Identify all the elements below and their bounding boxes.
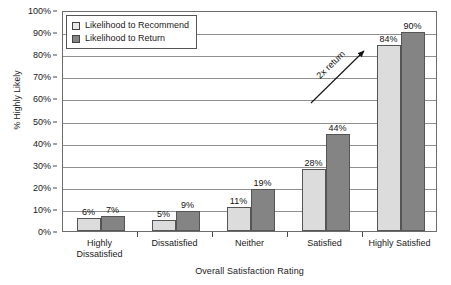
y-axis-tick-label: 20% xyxy=(33,183,51,192)
x-axis-tick-mark xyxy=(137,232,138,237)
x-axis-category-label-line: Highly xyxy=(62,238,137,249)
bar-chart: % Highly Likely 0%10%20%30%40%50%60%70%8… xyxy=(0,0,451,285)
legend-item[interactable]: Likelihood to Recommend xyxy=(72,19,189,32)
x-axis-category-label-line: Highly Satisfied xyxy=(362,238,437,249)
bar[interactable] xyxy=(251,189,275,231)
y-axis-tick-label: 0% xyxy=(38,228,51,237)
legend-label: Likelihood to Recommend xyxy=(85,21,189,30)
x-axis-category-label: Neither xyxy=(212,238,287,249)
y-axis-tick-mark xyxy=(53,187,57,188)
bar-group: 11%19% xyxy=(213,12,288,231)
bar[interactable] xyxy=(302,169,326,231)
x-axis-category-label: Highly Satisfied xyxy=(362,238,437,249)
bar-group: 28%44% xyxy=(288,12,363,231)
x-axis-tick-mark xyxy=(362,232,363,237)
bar[interactable] xyxy=(227,207,251,231)
y-axis-tick-mark xyxy=(53,232,57,233)
bar-value-label: 19% xyxy=(246,178,280,188)
x-axis-category-label: Dissatisfied xyxy=(137,238,212,249)
legend-label: Likelihood to Return xyxy=(85,34,165,43)
bar[interactable] xyxy=(77,218,101,231)
x-axis-category-label: Satisfied xyxy=(287,238,362,249)
legend-item[interactable]: Likelihood to Return xyxy=(72,32,189,45)
x-axis-category-label-line: Dissatisfied xyxy=(137,238,212,249)
y-axis-tick-mark xyxy=(53,165,57,166)
x-axis-tick-mark xyxy=(212,232,213,237)
y-axis-tick-label: 90% xyxy=(33,29,51,38)
y-axis-tick-mark xyxy=(53,209,57,210)
y-axis-tick-mark xyxy=(53,99,57,100)
x-axis-tick-marks xyxy=(62,232,437,237)
y-axis-tick-mark xyxy=(53,33,57,34)
bar[interactable] xyxy=(176,211,200,231)
bar-value-label: 90% xyxy=(396,21,430,31)
y-axis-tick-mark xyxy=(53,55,57,56)
x-axis-category-label: HighlyDissatisfied xyxy=(62,238,137,260)
y-axis-tick-label: 50% xyxy=(33,117,51,126)
y-axis-tick-label: 80% xyxy=(33,51,51,60)
x-axis-category-label-line: Satisfied xyxy=(287,238,362,249)
chart-legend: Likelihood to RecommendLikelihood to Ret… xyxy=(66,15,197,49)
bar[interactable] xyxy=(401,32,425,231)
x-axis-title: Overall Satisfaction Rating xyxy=(62,266,437,276)
bar-value-label: 44% xyxy=(321,123,355,133)
legend-swatch-icon xyxy=(72,22,80,30)
y-axis-tick-mark xyxy=(53,143,57,144)
bar-value-label: 9% xyxy=(171,200,205,210)
bar[interactable] xyxy=(377,45,401,231)
bar-value-label: 7% xyxy=(96,205,130,215)
bar[interactable] xyxy=(326,134,350,231)
y-axis-tick-label: 70% xyxy=(33,73,51,82)
bar-group: 84%90% xyxy=(363,12,438,231)
x-axis-category-labels: HighlyDissatisfiedDissatisfiedNeitherSat… xyxy=(62,238,437,268)
y-axis-tick-label: 100% xyxy=(28,7,51,16)
x-axis-category-label-line: Neither xyxy=(212,238,287,249)
y-axis-tick-label: 60% xyxy=(33,95,51,104)
bar[interactable] xyxy=(152,220,176,231)
y-axis-tick-mark xyxy=(53,121,57,122)
bar[interactable] xyxy=(101,216,125,231)
y-axis-tick-mark xyxy=(53,77,57,78)
y-axis-tick-label: 10% xyxy=(33,205,51,214)
legend-swatch-icon xyxy=(72,35,80,43)
y-axis-tick-mark xyxy=(53,11,57,12)
x-axis-tick-mark xyxy=(287,232,288,237)
y-axis-tick-labels: 0%10%20%30%40%50%60%70%80%90%100% xyxy=(0,11,57,232)
x-axis-category-label-line: Dissatisfied xyxy=(62,249,137,260)
y-axis-tick-label: 30% xyxy=(33,161,51,170)
y-axis-tick-label: 40% xyxy=(33,139,51,148)
